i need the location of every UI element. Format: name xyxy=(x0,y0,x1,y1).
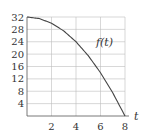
y-tick-label: 12 xyxy=(11,73,24,84)
y-tick-label: 28 xyxy=(11,24,24,35)
x-tick-label: 6 xyxy=(97,121,103,132)
x-axis-label: t xyxy=(134,110,139,123)
y-tick-label: 20 xyxy=(11,49,24,60)
chart: 48121620242832 2468 f(t) t xyxy=(0,0,146,136)
y-tick-label: 16 xyxy=(11,61,24,72)
x-tick-label: 4 xyxy=(73,121,79,132)
x-tick-labels: 2468 xyxy=(48,121,128,132)
y-tick-label: 8 xyxy=(18,86,24,97)
x-tick-label: 2 xyxy=(48,121,54,132)
y-tick-label: 32 xyxy=(11,12,24,23)
y-tick-labels: 48121620242832 xyxy=(11,12,24,110)
x-tick-label: 8 xyxy=(122,121,128,132)
y-tick-label: 24 xyxy=(11,36,24,47)
y-tick-label: 4 xyxy=(18,98,24,109)
curve-label: f(t) xyxy=(95,36,113,49)
grid-lines xyxy=(27,17,125,116)
